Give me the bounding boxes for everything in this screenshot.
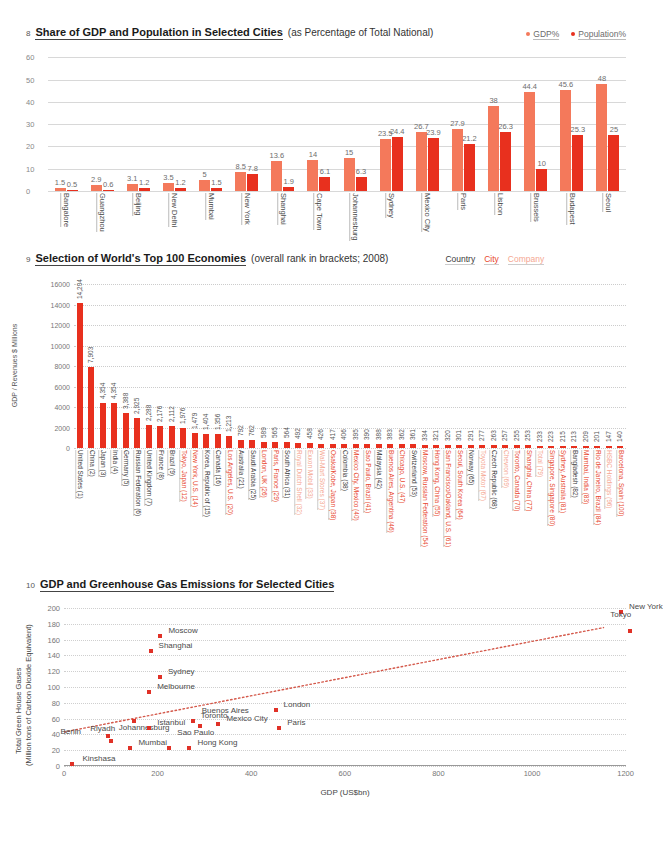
chart-10-point-label: Melbourne bbox=[157, 682, 195, 691]
chart-9-x-label: Mexico City, Mexico (40) bbox=[352, 450, 361, 521]
chart-9-x-label-cell: Saudi Arabia (25) bbox=[247, 448, 259, 544]
chart-8-plot-area: 01020304050601.50.52.90.63.11.23.51.251.… bbox=[48, 53, 626, 191]
chart-9-bar-column: 361 bbox=[408, 276, 420, 448]
chart-9-bar-value: 762 bbox=[248, 425, 255, 436]
chart-9-x-label: Royal Dutch Shell (32) bbox=[295, 450, 304, 515]
chart-9-bar-column: 201 bbox=[592, 276, 604, 448]
chart-9-bar-column: 140 bbox=[615, 276, 627, 448]
chart-9-x-label-cell: China (2) bbox=[86, 448, 98, 544]
chart-9-bar-value: 263 bbox=[490, 430, 497, 441]
chart-10-point-label: Sao Paulo bbox=[177, 728, 214, 737]
chart-9-title: Selection of World's Top 100 Economies bbox=[35, 252, 246, 266]
chart-10-point-label: London bbox=[284, 700, 311, 709]
chart-8-y-tick: 0 bbox=[26, 187, 30, 196]
chart-9-x-label: Malaysia (42) bbox=[375, 450, 384, 489]
chart-8-bar: 6.1 bbox=[319, 177, 330, 191]
chart-9-bar-column: 2,176 bbox=[155, 276, 167, 448]
chart-9-x-label-cell: Hong Kong, China (55) bbox=[431, 448, 443, 544]
chart-10-point-label: Mexico City bbox=[226, 714, 267, 723]
chart-9-x-label: Rio de Janeiro, Brazil (84) bbox=[594, 450, 603, 525]
chart-9-bar: 792 bbox=[238, 440, 244, 448]
chart-9-bar-value: 1,356 bbox=[214, 414, 221, 430]
chart-9-y-axis-title: GDP / Revenues $ Millions bbox=[11, 324, 18, 408]
chart-9-bar-column: 417 bbox=[327, 276, 339, 448]
chart-8-bar-value: 27.9 bbox=[450, 119, 465, 128]
chart-9-x-label: Osaka/Kobe, Japan (38) bbox=[329, 450, 338, 520]
chart-9-bar-column: 426 bbox=[316, 276, 328, 448]
chart-9-bar-column: 7,903 bbox=[86, 276, 98, 448]
chart-9-legend-city: City bbox=[484, 254, 499, 265]
chart-8-bar-group: 3.11.2 bbox=[120, 53, 156, 191]
chart-8-bar: 8.5 bbox=[235, 172, 246, 191]
chart-8-bar-value: 23.9 bbox=[426, 128, 441, 137]
chart-9-bar-column: 215 bbox=[557, 276, 569, 448]
chart-9-bar-value: 320 bbox=[444, 430, 451, 441]
chart-10-x-tick: 1000 bbox=[524, 769, 541, 778]
chart-9-y-tick: 0 bbox=[28, 445, 70, 452]
chart-9-x-label-cell: Rio de Janeiro, Brazil (84) bbox=[592, 448, 604, 544]
chart-9-x-label: Colombia (38) bbox=[341, 450, 350, 491]
chart-10-gridline bbox=[64, 640, 626, 641]
chart-9-bar-column: 589 bbox=[258, 276, 270, 448]
chart-9-x-label: HSBC Holdings (96) bbox=[605, 450, 614, 509]
chart-9-bar-value: 4,354 bbox=[110, 383, 117, 399]
chart-9-x-label: London, UK (26) bbox=[260, 450, 269, 498]
chart-10-gridline bbox=[64, 671, 626, 672]
chart-10-y-tick: 180 bbox=[36, 619, 60, 628]
chart-8-bar: 3.1 bbox=[127, 184, 138, 191]
chart-9-plot-area: GDP / Revenues $ Millions 02000400060008… bbox=[74, 276, 626, 448]
chart-8-bar-value: 1.2 bbox=[139, 178, 149, 187]
chart-9-bar-value: 140 bbox=[616, 431, 623, 442]
chart-9-x-label: Switzerland (53) bbox=[410, 450, 419, 497]
chart-8-bar-value: 15 bbox=[345, 148, 353, 157]
chart-10-y-axis-title-line1: Total Green House Gases bbox=[14, 668, 23, 754]
chart-9-bar-column: 1,479 bbox=[189, 276, 201, 448]
chart-10-y-tick: 60 bbox=[36, 714, 60, 723]
chart-10-y-tick: 120 bbox=[36, 667, 60, 676]
chart-9-bar-column: 1,213 bbox=[224, 276, 236, 448]
chart-8-bars: 1.50.52.90.63.11.23.51.251.58.57.813.61.… bbox=[48, 53, 626, 191]
chart-8-x-label: Seoul bbox=[603, 193, 614, 212]
chart-8-bar: 25.3 bbox=[572, 135, 583, 191]
chart-9-x-label: Shanghai, China (77) bbox=[525, 450, 534, 511]
chart-8-y-tick: 30 bbox=[26, 120, 34, 129]
chart-8-bar-group: 23.524.4 bbox=[373, 53, 409, 191]
chart-9-x-label-cell: Shanghai, China (77) bbox=[523, 448, 535, 544]
chart-8-bar-value: 1.2 bbox=[175, 178, 185, 187]
chart-9-bar: 14,204 bbox=[77, 303, 83, 448]
chart-10-x-axis-title: GDP (US$bn) bbox=[64, 788, 626, 797]
chart-8-y-tick: 60 bbox=[26, 53, 34, 62]
chart-9-x-label: Germany (5) bbox=[122, 450, 131, 486]
chart-9-x-label: Los Angeles, U.S. (20) bbox=[226, 450, 235, 515]
chart-9-x-label-cell: HSBC Holdings (96) bbox=[603, 448, 615, 544]
chart-8-x-labels: BangaloreGuangzhouBeijingNew DelhiMumbai… bbox=[48, 191, 626, 253]
chart-9-x-label: United States (1) bbox=[76, 450, 85, 499]
chart-9-bar-value: 147 bbox=[605, 431, 612, 442]
chart-9-bar-value: 209 bbox=[582, 431, 589, 442]
chart-9-bar-column: 291 bbox=[465, 276, 477, 448]
chart-8-bar-value: 13.6 bbox=[270, 151, 285, 160]
chart-9-bar-value: 2,176 bbox=[156, 405, 163, 421]
chart-9-x-label: Hong Kong, China (55) bbox=[433, 450, 442, 517]
chart-8-bar-group: 45.625.3 bbox=[554, 53, 590, 191]
chart-9-bar-value: 4,354 bbox=[99, 383, 106, 399]
chart-8-bar-value: 26.3 bbox=[498, 122, 513, 131]
chart-8-legend-item-0: GDP% bbox=[526, 29, 559, 40]
chart-10-data-point bbox=[628, 629, 632, 633]
chart-8-bar: 7.8 bbox=[247, 174, 258, 191]
chart-9-x-label-cell: Germany (5) bbox=[120, 448, 132, 544]
chart-9-bar-value: 458 bbox=[306, 428, 313, 439]
chart-8-x-label-cell: Beijing bbox=[120, 191, 156, 253]
chart-8-x-label: Budapest bbox=[567, 193, 578, 225]
chart-9-x-label: Japan (3) bbox=[99, 450, 108, 477]
chart-8-x-label-cell: Bangalore bbox=[48, 191, 84, 253]
chart-8-x-label: Lisbon bbox=[494, 193, 505, 215]
chart-10-data-point bbox=[198, 724, 202, 728]
chart-9-bar-value: 253 bbox=[524, 431, 531, 442]
chart-10-gridline bbox=[64, 734, 626, 735]
chart-8-x-label-cell: Shanghai bbox=[265, 191, 301, 253]
chart-8-x-label: Shanghai bbox=[278, 193, 289, 225]
chart-8-bar: 23.5 bbox=[380, 139, 391, 191]
chart-8-bar: 13.6 bbox=[271, 161, 282, 191]
chart-9-bar-value: 383 bbox=[386, 429, 393, 440]
